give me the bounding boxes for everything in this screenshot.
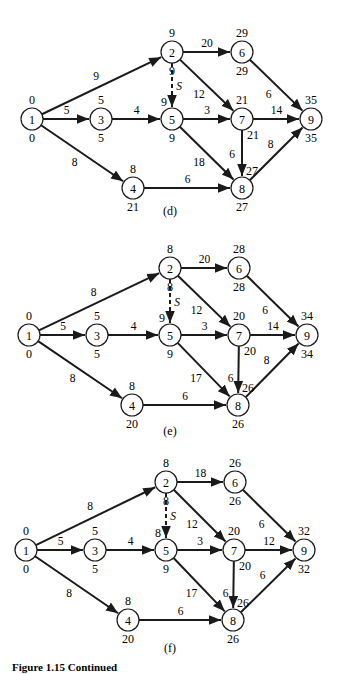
edge-weight: 12 [193, 88, 205, 100]
edge-weight: 6 [266, 88, 272, 100]
late-time: 32 [298, 562, 310, 576]
dummy-activity-label: S [170, 510, 176, 522]
early-time: 9 [169, 26, 175, 40]
edge-weight: 4 [131, 320, 137, 332]
edge-3-5: 4 [108, 320, 158, 335]
edge-7-8: 6 [229, 130, 242, 176]
node-label: 8 [230, 614, 236, 628]
edge-6-9: 6 [247, 276, 299, 327]
edge-weight: 6 [228, 372, 234, 384]
early-time: 34 [301, 309, 313, 323]
early-time: 35 [305, 93, 317, 107]
node-label: 1 [26, 329, 32, 343]
late-time: 9 [167, 347, 173, 361]
edge-weight: 6 [185, 173, 191, 185]
node-label: 3 [94, 329, 100, 343]
edge-4-8: 6 [144, 173, 230, 188]
node-4: 4821 [122, 162, 144, 214]
node-label: 5 [169, 113, 175, 127]
edge-7-9: 12 [245, 535, 292, 550]
edge-weight: 6 [259, 518, 265, 530]
diagrams-root: 95820S1243186146681002993554821599629297… [15, 26, 322, 655]
edge-3-5: 4 [112, 104, 160, 119]
edge-7-9: 14 [250, 320, 295, 335]
node-label: 8 [239, 182, 245, 196]
edge-weight: 6 [260, 569, 266, 581]
early-time: 20 [228, 524, 240, 538]
node-4: 4820 [121, 379, 143, 431]
late-time: 21 [127, 200, 139, 214]
node-9: 93232 [293, 524, 315, 576]
early-time: 20 [233, 309, 245, 323]
edge-6-9: 6 [243, 490, 296, 542]
edge-5-7: 3 [177, 535, 222, 550]
late-time: 20 [122, 632, 134, 646]
node-label: 8 [235, 399, 241, 413]
node-label: 5 [163, 544, 169, 558]
early-time: 0 [29, 93, 35, 107]
early-time: 9 [159, 311, 165, 325]
early-time: 8 [155, 526, 161, 540]
edge-weight: 9 [93, 70, 99, 82]
edge-weight: 6 [178, 605, 184, 617]
early-time: 8 [163, 456, 169, 470]
edge-weight: 5 [64, 104, 70, 116]
late-time: 26 [227, 632, 239, 646]
edge-weight: 8 [66, 587, 72, 599]
late-time: 5 [94, 347, 100, 361]
node-6: 62929 [231, 26, 253, 78]
edge-5-8: 17 [174, 558, 225, 611]
node-9: 93535 [300, 93, 322, 145]
late-time: 9 [169, 64, 175, 78]
node-2: 288 [155, 456, 177, 508]
edge-2-6: 18 [177, 467, 223, 482]
node-4: 4820 [117, 594, 139, 646]
edge-2-7: 12 [178, 276, 230, 327]
late-time: 34 [301, 347, 313, 361]
node-3: 355 [84, 524, 106, 576]
network-diagrams-canvas: 95820S1243186146681002993554821599629297… [0, 0, 339, 674]
node-5: 589 [155, 526, 177, 576]
edge-weight: 8 [87, 500, 93, 512]
node-3: 355 [90, 93, 112, 145]
edge-weight: 8 [70, 372, 76, 384]
node-label: 3 [98, 113, 104, 127]
figure-caption: Figure 1.15 Continued [12, 661, 117, 673]
late-time: 0 [29, 131, 35, 145]
edge-weight: 12 [191, 304, 203, 316]
node-6: 62626 [224, 456, 246, 508]
edge-weight: 6 [182, 390, 188, 402]
edge-6-9: 6 [250, 60, 302, 111]
node-3: 355 [86, 309, 108, 361]
diagram-caption-e: (e) [163, 424, 176, 438]
edge-weight: 8 [264, 354, 270, 366]
early-time: 8 [167, 242, 173, 256]
edge-weight: 6 [223, 587, 229, 599]
early-time: 8 [130, 162, 136, 176]
network-diagram-f: 85818S1243176126661002883554820589626267… [15, 456, 315, 655]
node-label: 2 [169, 46, 175, 60]
edge-weight: 6 [262, 304, 268, 316]
node-5: 599 [159, 311, 181, 361]
edge-3-5: 4 [106, 535, 154, 550]
edge-weight: 3 [202, 320, 208, 332]
edge-weight: 12 [263, 535, 275, 547]
node-6: 62828 [228, 242, 250, 294]
edge-2-6: 20 [183, 37, 230, 52]
node-7: 72020 [223, 524, 251, 573]
node-label: 9 [308, 113, 314, 127]
node-7: 72020 [228, 309, 256, 358]
node-7: 72121 [231, 93, 259, 142]
edge-weight: 5 [58, 535, 64, 547]
edge-2-6: 20 [181, 253, 227, 268]
node-label: 9 [301, 544, 307, 558]
late-time: 28 [233, 280, 245, 294]
node-label: 6 [236, 262, 242, 276]
late-time: 8 [167, 280, 173, 294]
early-time: 26 [242, 381, 254, 395]
early-time: 26 [229, 456, 241, 470]
node-5: 599 [161, 95, 183, 145]
diagram-caption-f: (f) [164, 641, 176, 655]
node-label: 7 [231, 544, 237, 558]
edge-weight: 6 [229, 148, 235, 160]
